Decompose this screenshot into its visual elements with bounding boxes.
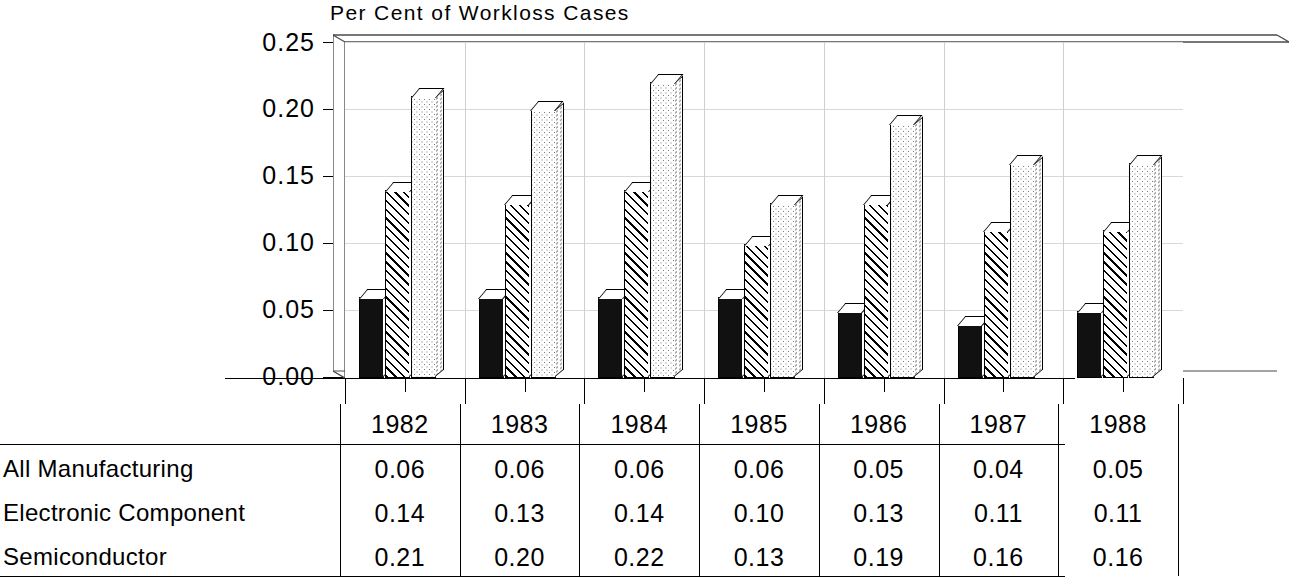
- table-bottom-rule: [0, 576, 1065, 577]
- table-cell-r0-c3: 0.06: [699, 452, 819, 486]
- x-tick-major-6: [1063, 378, 1064, 404]
- group-separator-4: [824, 42, 825, 378]
- gridline-025: [345, 42, 1183, 43]
- row-label-electronic-component: Electronic Component: [3, 496, 333, 530]
- table-cell-r1-c6: 0.11: [1058, 496, 1178, 530]
- table-year-header-1982: 1982: [340, 407, 460, 441]
- y-tick-label-1: 0.20: [223, 96, 315, 121]
- table-cell-r2-c1: 0.20: [460, 540, 580, 574]
- gridline-015: [345, 176, 1183, 177]
- table-cell-r1-c3: 0.10: [699, 496, 819, 530]
- x-tick-minor-1983: [525, 378, 526, 392]
- bar-electronic-component-1987: [984, 230, 1009, 378]
- x-tick-major-4: [824, 378, 825, 404]
- table-cell-r0-c5: 0.04: [939, 452, 1059, 486]
- x-tick-major-1: [465, 378, 466, 404]
- table-cell-r2-c6: 0.16: [1058, 540, 1178, 574]
- table-cell-r2-c4: 0.19: [819, 540, 939, 574]
- x-tick-minor-1987: [1003, 378, 1004, 392]
- table-cell-r1-c1: 0.13: [460, 496, 580, 530]
- bar-electronic-component-1986: [864, 203, 889, 378]
- bar-side-face: [555, 103, 564, 377]
- bar-electronic-component-1985: [744, 244, 769, 378]
- table-cell-r0-c4: 0.05: [819, 452, 939, 486]
- y-tick-label-4: 0.05: [223, 297, 315, 322]
- table-cell-r0-c1: 0.06: [460, 452, 580, 486]
- x-axis-line: [225, 378, 1075, 379]
- bar-electronic-component-1988: [1103, 230, 1128, 378]
- bar-side-face: [674, 76, 683, 377]
- chart-title: Per Cent of Workloss Cases: [330, 0, 760, 28]
- bar-semiconductor-1984: [650, 82, 675, 378]
- group-separator-5: [944, 42, 945, 378]
- group-separator-2: [584, 42, 585, 378]
- table-column-rule-7: [1178, 404, 1179, 576]
- table-cell-r1-c0: 0.14: [340, 496, 460, 530]
- gridline-020: [345, 109, 1183, 110]
- table-header-rule: [0, 444, 1065, 445]
- x-tick-major-3: [704, 378, 705, 404]
- plot-canvas: [345, 42, 1183, 378]
- table-cell-r1-c2: 0.14: [579, 496, 699, 530]
- group-separator-1: [465, 42, 466, 378]
- x-tick-minor-1986: [884, 378, 885, 392]
- x-tick-major-5: [944, 378, 945, 404]
- table-cell-r2-c0: 0.21: [340, 540, 460, 574]
- y-tick-label-3: 0.10: [223, 230, 315, 255]
- table-cell-r2-c2: 0.22: [579, 540, 699, 574]
- bar-side-face: [435, 89, 444, 377]
- x-tick-major-7: [1183, 378, 1184, 404]
- bar-semiconductor-1986: [890, 123, 915, 378]
- y-tick-label-0: 0.25: [223, 30, 315, 55]
- table-cell-r2-c3: 0.13: [699, 540, 819, 574]
- x-tick-minor-1985: [764, 378, 765, 392]
- table-cell-r1-c5: 0.11: [939, 496, 1059, 530]
- row-label-all-manufacturing: All Manufacturing: [3, 452, 333, 486]
- table-year-header-1984: 1984: [579, 407, 699, 441]
- table-year-header-1983: 1983: [460, 407, 580, 441]
- bar-semiconductor-1985: [770, 203, 795, 378]
- bar-electronic-component-1983: [505, 203, 530, 378]
- bar-semiconductor-1987: [1010, 163, 1035, 378]
- x-tick-minor-1982: [405, 378, 406, 392]
- x-tick-major-2: [584, 378, 585, 404]
- bar-all-manufacturing-1986: [838, 311, 863, 378]
- x-tick-major-0: [345, 378, 346, 404]
- bar-electronic-component-1982: [385, 190, 410, 378]
- table-cell-r0-c6: 0.05: [1058, 452, 1178, 486]
- x-tick-minor-1988: [1123, 378, 1124, 392]
- table-year-header-1986: 1986: [819, 407, 939, 441]
- plot-region: 0.25 0.20 0.15 0.10 0.05 0.00: [225, 30, 1075, 398]
- table-cell-r0-c0: 0.06: [340, 452, 460, 486]
- table-year-header-1988: 1988: [1058, 407, 1178, 441]
- bar-semiconductor-1982: [411, 96, 436, 378]
- y-tick-label-2: 0.15: [223, 163, 315, 188]
- data-table: 1982198319841985198619871988 All Manufac…: [0, 404, 1075, 581]
- bar-side-face: [1153, 156, 1162, 377]
- bar-side-face: [794, 197, 803, 377]
- table-year-header-1987: 1987: [939, 407, 1059, 441]
- bar-all-manufacturing-1987: [958, 324, 983, 378]
- bar-all-manufacturing-1983: [479, 297, 504, 378]
- bar-semiconductor-1983: [531, 109, 556, 378]
- bar-side-face: [1034, 156, 1043, 377]
- table-cell-r2-c5: 0.16: [939, 540, 1059, 574]
- bar-all-manufacturing-1985: [718, 297, 743, 378]
- table-cell-r0-c2: 0.06: [579, 452, 699, 486]
- table-year-header-1985: 1985: [699, 407, 819, 441]
- bar-semiconductor-1988: [1129, 163, 1154, 378]
- group-separator-6: [1063, 42, 1064, 378]
- bar-all-manufacturing-1984: [598, 297, 623, 378]
- bar-all-manufacturing-1982: [359, 297, 384, 378]
- table-cell-r1-c4: 0.13: [819, 496, 939, 530]
- bar-side-face: [914, 116, 923, 377]
- x-tick-minor-1984: [644, 378, 645, 392]
- bar-all-manufacturing-1988: [1077, 311, 1102, 378]
- bar-electronic-component-1984: [624, 190, 649, 378]
- y-tick-label-5: 0.00: [223, 364, 315, 389]
- group-separator-3: [704, 42, 705, 378]
- row-label-semiconductor: Semiconductor: [3, 540, 333, 574]
